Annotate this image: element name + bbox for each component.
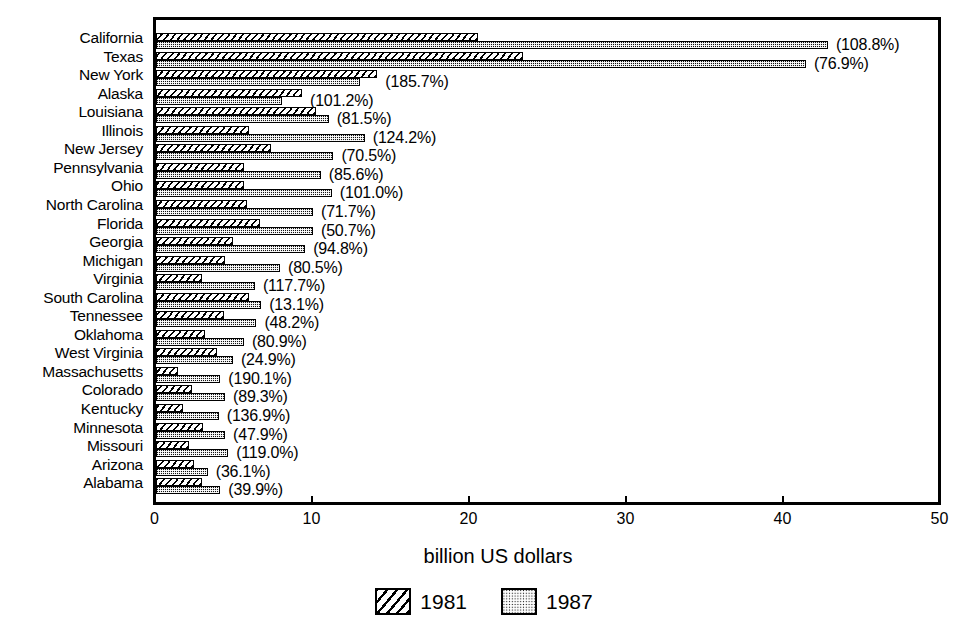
bar-1981 — [156, 478, 202, 486]
percent-change-label: (85.6%) — [329, 167, 384, 183]
bar-1981 — [156, 367, 178, 375]
percent-change-label: (124.2%) — [373, 130, 436, 146]
legend-swatch-1987-icon — [501, 588, 537, 615]
bar-1987 — [156, 375, 220, 383]
percent-change-label: (13.1%) — [269, 297, 324, 313]
y-axis-label: Louisiana — [0, 104, 148, 119]
bar-1987 — [156, 41, 828, 49]
bar-1987 — [156, 264, 280, 272]
bar-1987 — [156, 486, 220, 494]
bar-1987 — [156, 449, 228, 457]
y-axis-label: Illinois — [0, 123, 148, 138]
y-axis-label: Oklahoma — [0, 327, 148, 342]
legend-item-1981: 1981 — [375, 588, 467, 615]
bar-1987 — [156, 412, 219, 420]
bar-1987 — [156, 338, 244, 346]
bar-1987 — [156, 78, 360, 86]
bar-1987 — [156, 97, 282, 105]
y-axis-label: New York — [0, 67, 148, 82]
y-axis-label: Ohio — [0, 178, 148, 193]
percent-change-label: (117.7%) — [263, 278, 325, 294]
x-axis-tick — [468, 496, 470, 505]
bar-1987 — [156, 208, 313, 216]
percent-change-label: (190.1%) — [228, 371, 291, 387]
y-axis-label: Georgia — [0, 234, 148, 249]
bar-1987 — [156, 431, 225, 439]
percent-change-label: (119.0%) — [236, 445, 298, 461]
bar-1981 — [156, 441, 189, 449]
bar-1981 — [156, 348, 217, 356]
percent-change-label: (47.9%) — [233, 427, 288, 443]
bar-1981 — [156, 70, 377, 78]
bar-1981 — [156, 274, 202, 282]
bar-1981 — [156, 200, 247, 208]
percent-change-label: (185.7%) — [385, 74, 448, 90]
bar-1981 — [156, 163, 244, 171]
y-axis-label: Florida — [0, 216, 148, 231]
bar-1981 — [156, 126, 249, 134]
x-axis-title: billion US dollars — [0, 545, 968, 567]
y-axis-label: Virginia — [0, 271, 148, 286]
y-axis-label: Minnesota — [0, 420, 148, 435]
bar-1987 — [156, 60, 806, 68]
x-axis: 01020304050 — [153, 505, 941, 506]
bar-1981 — [156, 107, 316, 115]
bars-layer: (108.8%)(76.9%)(185.7%)(101.2%)(81.5%)(1… — [156, 20, 941, 505]
bar-1981 — [156, 89, 302, 97]
y-axis-label: North Carolina — [0, 197, 148, 212]
bar-1987 — [156, 152, 333, 160]
bar-1981 — [156, 181, 244, 189]
x-axis-tick-label: 50 — [931, 511, 949, 527]
y-axis-category-labels: CaliforniaTexasNew YorkAlaskaLouisianaIl… — [0, 17, 148, 505]
y-axis-label: Arizona — [0, 457, 148, 472]
x-axis-tick-label: 20 — [460, 511, 478, 527]
bar-1987 — [156, 282, 255, 290]
bar-1981 — [156, 330, 205, 338]
percent-change-label: (71.7%) — [321, 204, 376, 220]
percent-change-label: (70.5%) — [341, 148, 396, 164]
y-axis-label: Alabama — [0, 475, 148, 490]
bar-1981 — [156, 52, 523, 60]
percent-change-label: (81.5%) — [337, 111, 392, 127]
legend-swatch-1981-icon — [375, 588, 411, 615]
x-axis-tick-label: 30 — [617, 511, 635, 527]
bar-1987 — [156, 393, 225, 401]
y-axis-label: Michigan — [0, 253, 148, 268]
percent-change-label: (80.5%) — [288, 260, 343, 276]
bar-1981 — [156, 33, 478, 41]
y-axis-label: Massachusetts — [0, 364, 148, 379]
bar-1987 — [156, 468, 208, 476]
bar-1987 — [156, 227, 313, 235]
bar-1987 — [156, 189, 332, 197]
legend-label-1987: 1987 — [546, 591, 593, 612]
bar-1981 — [156, 460, 194, 468]
percent-change-label: (89.3%) — [233, 389, 288, 405]
percent-change-label: (101.2%) — [310, 93, 373, 109]
bar-1987 — [156, 134, 365, 142]
percent-change-label: (36.1%) — [216, 464, 271, 480]
x-axis-tick — [625, 496, 627, 505]
percent-change-label: (39.9%) — [228, 482, 283, 498]
bar-1987 — [156, 115, 329, 123]
y-axis-label: Kentucky — [0, 401, 148, 416]
bar-1987 — [156, 245, 305, 253]
bar-1981 — [156, 256, 225, 264]
legend-label-1981: 1981 — [420, 591, 467, 612]
bar-1981 — [156, 237, 233, 245]
bar-1987 — [156, 171, 321, 179]
x-axis-tick-label: 0 — [150, 511, 159, 527]
percent-change-label: (76.9%) — [814, 56, 869, 72]
legend-item-1987: 1987 — [501, 588, 593, 615]
x-axis-tick — [311, 496, 313, 505]
y-axis-label: West Virginia — [0, 345, 148, 360]
percent-change-label: (50.7%) — [321, 223, 376, 239]
y-axis-label: Pennsylvania — [0, 160, 148, 175]
bar-1987 — [156, 319, 256, 327]
y-axis-label: Missouri — [0, 438, 148, 453]
x-axis-tick-label: 10 — [303, 511, 321, 527]
percent-change-label: (48.2%) — [264, 315, 319, 331]
percent-change-label: (136.9%) — [227, 408, 290, 424]
y-axis-label: New Jersey — [0, 141, 148, 156]
percent-change-label: (80.9%) — [252, 334, 307, 350]
bar-1981 — [156, 293, 249, 301]
